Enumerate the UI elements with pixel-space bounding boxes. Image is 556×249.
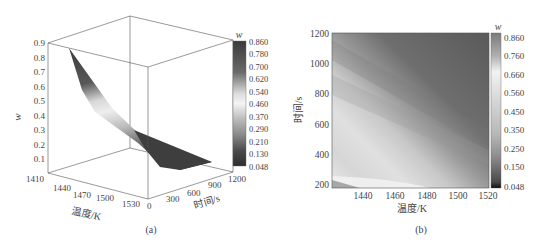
svg-text:1410: 1410 [26,174,45,184]
svg-text:0.150: 0.150 [504,162,525,172]
svg-text:1500: 1500 [449,191,468,201]
svg-text:0.290: 0.290 [249,124,268,134]
svg-text:0.250: 0.250 [504,144,525,154]
svg-text:1440: 1440 [354,191,373,201]
svg-text:0.860: 0.860 [249,37,268,47]
svg-text:0.5: 0.5 [34,96,46,106]
x-axis-label: 温度/K [71,204,104,222]
svg-text:0.8: 0.8 [34,53,46,63]
svg-text:0.6: 0.6 [34,82,46,92]
svg-text:600: 600 [187,188,201,198]
svg-text:0.210: 0.210 [249,137,268,147]
svg-text:0.370: 0.370 [249,112,268,122]
z-axis-ticks: 0.9 0.8 0.7 0.6 0.5 0.4 0.3 0.2 0.1 [34,38,46,164]
svg-text:1480: 1480 [418,191,437,201]
svg-text:1440: 1440 [53,183,72,193]
svg-text:1520: 1520 [479,191,498,201]
svg-text:200: 200 [315,180,330,190]
svg-text:w: w [236,29,243,40]
svg-text:0.1: 0.1 [34,154,45,164]
svg-text:400: 400 [315,150,330,160]
svg-text:1500: 1500 [96,193,115,203]
svg-text:0.700: 0.700 [249,62,268,72]
svg-text:0.460: 0.460 [249,99,268,109]
heatmap-area [332,33,489,188]
svg-text:0.130: 0.130 [249,149,268,159]
panel-a-3d-surface: 0.9 0.8 0.7 0.6 0.5 0.4 0.3 0.2 0.1 w 14… [0,0,290,249]
heatmap-plot: 1200 1000 800 600 400 200 时间/s 1440 1460… [290,0,556,249]
svg-text:0.450: 0.450 [504,107,525,117]
svg-text:1200: 1200 [310,29,329,39]
caption-a: (a) [145,224,156,236]
svg-text:0.860: 0.860 [504,33,525,43]
svg-text:1200: 1200 [228,174,247,184]
svg-text:0.3: 0.3 [34,125,46,135]
panel-b-heatmap: 1200 1000 800 600 400 200 时间/s 1440 1460… [290,0,556,249]
svg-text:0.9: 0.9 [34,38,46,48]
x-axis-ticks: 1410 1440 1470 1500 1530 [26,174,141,209]
svg-text:0.350: 0.350 [504,125,525,135]
y-axis-ticks: 1200 1000 800 600 400 200 [310,29,329,190]
svg-text:0.560: 0.560 [504,88,525,98]
caption-b: (b) [415,224,427,236]
svg-text:0.540: 0.540 [249,87,268,97]
svg-text:1460: 1460 [386,191,405,201]
surface [69,48,212,170]
y-axis-label: 时间/s [292,97,304,124]
surface-plot: 0.9 0.8 0.7 0.6 0.5 0.4 0.3 0.2 0.1 w 14… [0,0,290,249]
svg-text:0: 0 [147,201,152,211]
svg-text:0.620: 0.620 [249,74,268,84]
svg-text:1000: 1000 [310,59,329,69]
svg-text:w: w [495,21,502,32]
x-axis-label: 温度/K [397,202,428,214]
svg-text:800: 800 [315,89,330,99]
colorbar-a: w 0.860 0.780 0.700 0.620 0.540 0.460 0.… [233,29,268,172]
svg-text:300: 300 [166,194,180,204]
svg-text:0.660: 0.660 [504,70,525,80]
svg-text:0.760: 0.760 [504,51,525,61]
svg-text:0.4: 0.4 [34,111,46,121]
svg-text:0.048: 0.048 [504,182,525,192]
svg-text:0.7: 0.7 [34,67,46,77]
axes-box [48,16,233,173]
svg-text:0.048: 0.048 [249,162,268,172]
colorbar-b: w 0.860 0.760 0.660 0.560 0.450 0.350 0.… [491,21,525,192]
svg-text:900: 900 [208,180,222,190]
svg-text:600: 600 [315,120,330,130]
z-axis-label: w [11,113,23,121]
svg-text:0.2: 0.2 [34,140,45,150]
svg-text:0.780: 0.780 [249,49,268,59]
svg-text:1530: 1530 [122,199,141,209]
x-axis-ticks: 1440 1460 1480 1500 1520 [354,191,498,201]
svg-text:1470: 1470 [73,190,92,200]
